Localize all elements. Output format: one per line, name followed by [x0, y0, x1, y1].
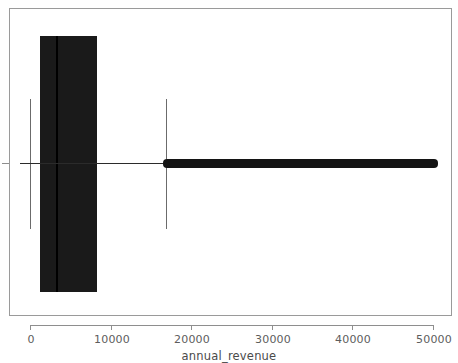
y-axis-tick — [2, 163, 9, 164]
boxplot-figure: 0 10000 20000 30000 40000 50000 annual_r… — [0, 0, 458, 363]
x-axis-tick-label: 30000 — [255, 333, 291, 346]
x-axis-tick — [433, 325, 434, 330]
x-axis-tick-label: 50000 — [416, 333, 452, 346]
x-axis-tick — [30, 325, 31, 330]
x-axis-title: annual_revenue — [0, 349, 458, 363]
x-axis-tick — [352, 325, 353, 330]
x-axis-tick-label: 0 — [27, 333, 34, 346]
x-axis-line — [30, 325, 434, 326]
plot-frame — [9, 8, 452, 316]
x-axis-tick — [272, 325, 273, 330]
x-axis-tick — [191, 325, 192, 330]
x-axis-tick-label: 10000 — [94, 333, 130, 346]
x-axis-tick-label: 40000 — [335, 333, 371, 346]
x-axis-tick-label: 20000 — [174, 333, 210, 346]
x-axis-tick — [111, 325, 112, 330]
